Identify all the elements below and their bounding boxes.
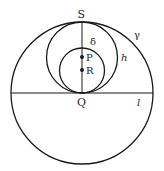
label-P: P <box>86 52 93 63</box>
label-gamma: γ <box>134 29 140 40</box>
point-P <box>80 55 84 59</box>
label-S: S <box>78 8 86 21</box>
geometry-diagram: S δ γ P R h Q l <box>0 0 164 171</box>
label-l: l <box>137 97 140 108</box>
label-h: h <box>121 52 127 63</box>
point-R <box>80 68 84 72</box>
label-R: R <box>86 65 94 76</box>
label-delta: δ <box>90 36 96 47</box>
label-Q: Q <box>77 96 86 109</box>
